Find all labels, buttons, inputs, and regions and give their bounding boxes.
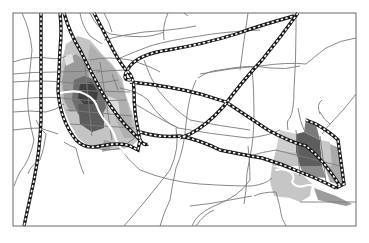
map-svg (0, 0, 369, 243)
map-canvas (0, 0, 369, 243)
